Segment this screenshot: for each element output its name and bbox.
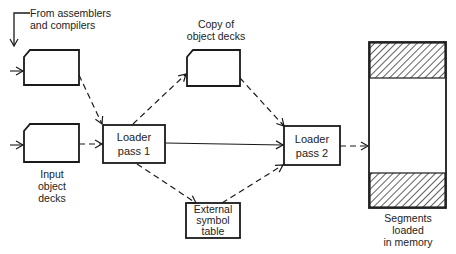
source-arrow	[14, 13, 30, 46]
source-label: From assemblers and compilers	[30, 7, 111, 31]
edge-deck-to-pass1	[79, 75, 102, 124]
object-deck-top	[24, 50, 79, 85]
loader-pass-2-label: Loader pass 2	[284, 126, 340, 165]
memory-label: Segments loaded in memory	[365, 212, 451, 248]
segment-hatch-top	[370, 43, 445, 78]
edge-est-to-pass2	[222, 165, 283, 203]
input-decks-label: Input object decks	[30, 168, 74, 204]
edge-copy-to-pass2	[240, 78, 284, 126]
memory-block	[369, 42, 446, 208]
edge-pass1-to-copy	[133, 74, 186, 124]
segment-hatch-bottom	[370, 173, 445, 207]
input-object-deck	[24, 124, 79, 162]
external-symbol-table-label: External symbol table	[186, 203, 240, 238]
copy-object-deck	[187, 50, 240, 86]
copy-decks-label: Copy of object decks	[178, 18, 254, 42]
edge-pass1-to-pass2	[165, 143, 283, 145]
loader-pass-1-label: Loader pass 1	[103, 125, 165, 163]
edge-pass1-to-est	[137, 164, 196, 203]
